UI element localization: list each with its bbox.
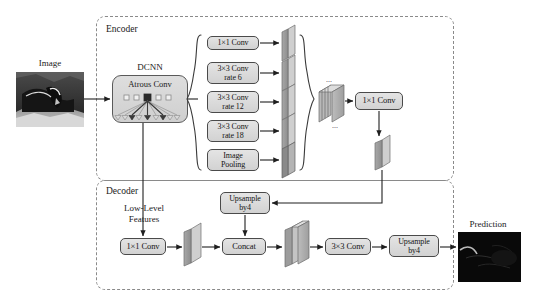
aspp-projection-conv[interactable]: 1×1 Conv [355,92,403,110]
decoder-region-label: Decoder [104,187,140,197]
upsample-final-label-line1: Upsample [398,237,430,247]
aspp-branch-5-label-line1: Image [223,151,243,161]
dcnn-inner-label: Atrous Conv [112,79,188,89]
input-image-label: Image [16,58,84,69]
concat-label: Concat [232,242,255,252]
figure-canvas: Encoder Decoder Image DCNN [0,0,536,303]
aspp-branch-4-label-line2: rate 18 [222,131,243,141]
aspp-branch-3-label-line1: 3×3 Conv [217,93,248,103]
aspp-branch-5-label-line2: Pooling [221,160,245,170]
aspp-branch-3x3-rate18[interactable]: 3×3 Conv rate 18 [207,120,259,142]
prediction-label: Prediction [455,219,521,230]
aspp-branch-3x3-rate12[interactable]: 3×3 Conv rate 12 [207,91,259,113]
input-photo-icon [16,72,84,127]
dcnn-title: DCNN [112,62,188,72]
prediction-thumbnail [458,232,521,282]
aspp-projection-label: 1×1 Conv [362,96,395,106]
upsample-top-label-line2: by4 [239,203,251,213]
upsample-final-box[interactable]: Upsample by4 [389,235,439,257]
low-level-conv-label: 1×1 Conv [126,242,159,252]
low-level-conv-box[interactable]: 1×1 Conv [120,238,166,255]
aspp-branch-4-label-line1: 3×3 Conv [217,122,248,132]
low-level-features-label-line1: Low-Level [113,203,175,214]
aspp-branch-1-label: 1×1 Conv [217,38,248,48]
aspp-branch-2-label-line1: 3×3 Conv [217,64,248,74]
aspp-branch-2-label-line2: rate 6 [224,73,241,83]
low-level-features-label-line2: Features [113,214,175,225]
encoder-region-label: Encoder [104,25,140,35]
upsample-top-label-line1: Upsample [229,194,261,204]
aspp-branch-3-label-line2: rate 12 [222,102,243,112]
upsample-final-label-line2: by4 [408,246,420,256]
prediction-mask-icon [458,232,521,282]
input-image-thumbnail [16,72,84,127]
refine-conv-label: 3×3 Conv [331,242,364,252]
aspp-branch-image-pooling[interactable]: Image Pooling [207,149,259,171]
atrous-convolution-icon [112,91,188,123]
refine-conv-box[interactable]: 3×3 Conv [325,238,371,255]
upsample-top-box[interactable]: Upsample by4 [220,192,270,214]
aspp-branch-3x3-rate6[interactable]: 3×3 Conv rate 6 [207,62,259,84]
aspp-branch-1x1-conv[interactable]: 1×1 Conv [207,36,259,50]
concat-box[interactable]: Concat [222,238,266,255]
